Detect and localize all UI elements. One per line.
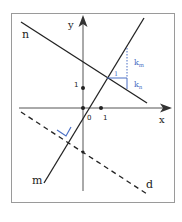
x-unit-label: 1 [103, 114, 107, 122]
y-axis-label: y [67, 19, 74, 30]
d-intercept-point [81, 150, 84, 153]
line-m-label: m [32, 174, 43, 187]
y-unit-point [81, 86, 85, 90]
origin-point [81, 106, 85, 110]
slope-run-label: 1 [114, 70, 118, 78]
line-d-label: d [146, 178, 153, 191]
line-n-label: n [22, 28, 29, 41]
y-unit-label: 1 [74, 81, 78, 89]
coordinate-diagram: n m d y x 0 1 1 1 km kn [0, 0, 182, 222]
x-axis-label: x [159, 114, 165, 125]
x-unit-point [99, 106, 103, 110]
origin-label: 0 [87, 114, 91, 122]
